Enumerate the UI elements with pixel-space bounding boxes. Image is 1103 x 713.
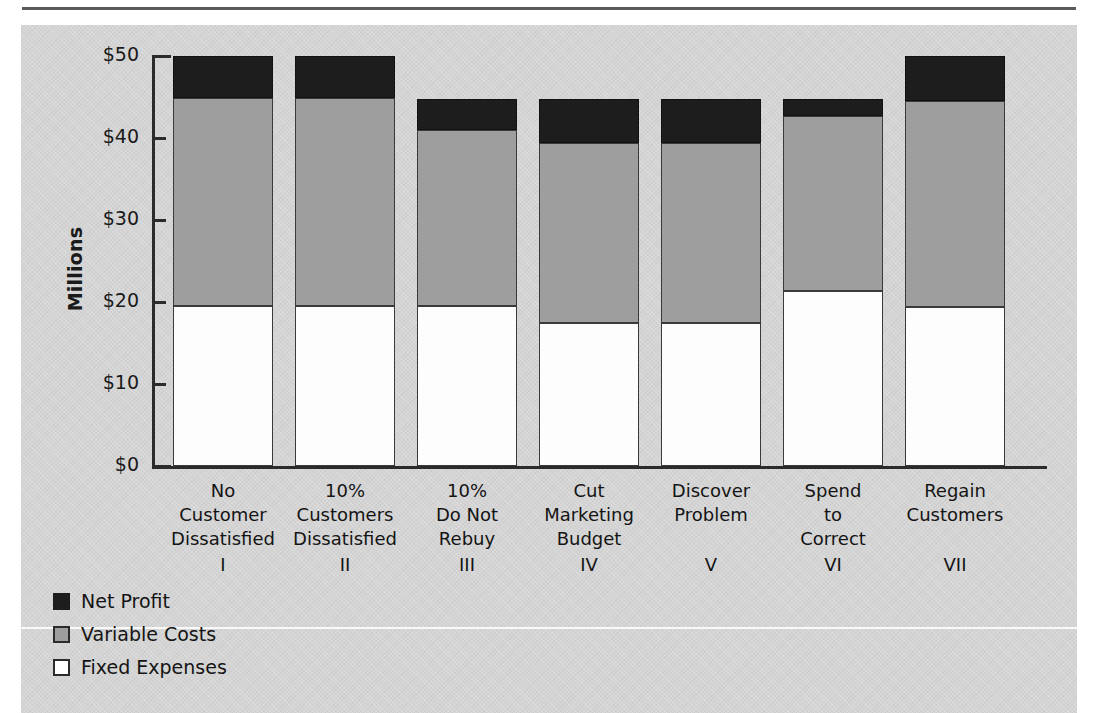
x-axis-label-i: NoCustomerDissatisfiedI — [162, 479, 284, 577]
bar-segment-profit — [295, 56, 395, 98]
bar-iv — [539, 99, 639, 466]
x-axis-label-line: Cut — [528, 479, 650, 503]
x-axis-label-roman: V — [650, 553, 772, 577]
bar-segment-variable — [661, 143, 761, 323]
black-swatch-icon — [53, 593, 70, 610]
x-axis-label-vii: RegainCustomersVII — [894, 479, 1016, 577]
x-axis-label-line: Problem — [650, 503, 772, 527]
x-axis-label-roman: II — [284, 553, 406, 577]
bar-segment-variable — [417, 130, 517, 306]
x-axis-label-line: to — [772, 503, 894, 527]
bar-segment-profit — [905, 56, 1005, 101]
bar-segment-profit — [173, 56, 273, 98]
bar-segment-fixed — [661, 323, 761, 467]
x-axis-label-line: Marketing — [528, 503, 650, 527]
x-axis-label-line: Budget — [528, 527, 650, 551]
x-axis-label-v: DiscoverProblemV — [650, 479, 772, 577]
bar-iii — [417, 99, 517, 466]
bar-segment-variable — [173, 98, 273, 306]
bar-segment-fixed — [783, 291, 883, 466]
x-axis-label-line: Customers — [284, 503, 406, 527]
bar-segment-profit — [783, 99, 883, 115]
bar-ii — [295, 56, 395, 466]
legend-item-label: Net Profit — [81, 590, 170, 612]
x-axis-label-line: Dissatisfied — [284, 527, 406, 551]
x-axis-label-line: Regain — [894, 479, 1016, 503]
bar-segment-fixed — [417, 306, 517, 466]
bar-segment-profit — [417, 99, 517, 129]
bar-segment-variable — [295, 98, 395, 306]
bar-segment-fixed — [173, 306, 273, 466]
chart-panel: Millions $0$10$20$30$40$50 NoCustomerDis… — [21, 25, 1077, 713]
bar-segment-fixed — [295, 306, 395, 466]
bar-vii — [905, 56, 1005, 466]
x-axis-label-line: Customer — [162, 503, 284, 527]
chart-figure: Millions $0$10$20$30$40$50 NoCustomerDis… — [0, 0, 1103, 713]
legend-item: Net Profit — [53, 587, 227, 615]
legend-item-label: Fixed Expenses — [81, 656, 227, 678]
x-axis-label-roman: I — [162, 553, 284, 577]
white-swatch-icon — [53, 659, 70, 676]
x-axis-label-ii: 10%CustomersDissatisfiedII — [284, 479, 406, 577]
gray-swatch-icon — [53, 626, 70, 643]
legend-item-label: Variable Costs — [81, 623, 216, 645]
x-axis-label-line: 10% — [406, 479, 528, 503]
x-axis-label-line: Dissatisfied — [162, 527, 284, 551]
legend-item: Variable Costs — [53, 620, 227, 648]
bar-segment-fixed — [539, 323, 639, 467]
x-axis-label-line: Discover — [650, 479, 772, 503]
x-axis-label-line: Do Not — [406, 503, 528, 527]
bar-segment-variable — [783, 116, 883, 291]
bar-segment-profit — [661, 99, 761, 142]
bar-v — [661, 99, 761, 466]
x-axis-label-roman: VII — [894, 553, 1016, 577]
x-axis-label-line: 10% — [284, 479, 406, 503]
bar-segment-fixed — [905, 307, 1005, 466]
x-axis-label-iii: 10%Do NotRebuyIII — [406, 479, 528, 577]
bar-segment-variable — [539, 143, 639, 323]
top-divider-rule — [22, 7, 1076, 10]
x-axis-label-roman: III — [406, 553, 528, 577]
x-axis-label-roman: IV — [528, 553, 650, 577]
x-axis-label-line: Correct — [772, 527, 894, 551]
bar-segment-profit — [539, 99, 639, 142]
chart-legend: Net ProfitVariable CostsFixed Expenses — [53, 587, 227, 686]
x-axis-label-line: No — [162, 479, 284, 503]
x-axis-label-line: Spend — [772, 479, 894, 503]
x-axis-label-vi: SpendtoCorrectVI — [772, 479, 894, 577]
bar-i — [173, 56, 273, 466]
x-axis-label-line: Customers — [894, 503, 1016, 527]
x-axis-label-iv: CutMarketingBudgetIV — [528, 479, 650, 577]
legend-item: Fixed Expenses — [53, 653, 227, 681]
bar-segment-variable — [905, 101, 1005, 307]
x-axis-label-roman: VI — [772, 553, 894, 577]
bar-vi — [783, 99, 883, 466]
x-axis-label-line: Rebuy — [406, 527, 528, 551]
